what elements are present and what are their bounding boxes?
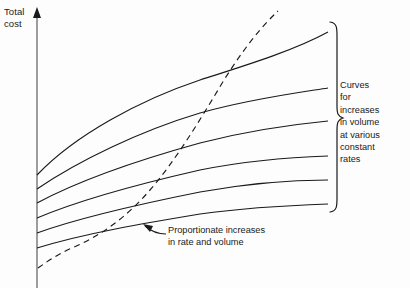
y-axis-arrowhead — [33, 7, 41, 18]
proportionate-callout-leader — [143, 224, 166, 234]
constant-rate-curve-1 — [37, 32, 328, 175]
constant-rate-curve-group — [37, 32, 328, 248]
chart-figure: Total cost Curves for increases in volum… — [0, 0, 410, 288]
proportionate-annotation-label: Proportionate increases in rate and volu… — [168, 224, 265, 248]
y-axis-label: Total cost — [4, 6, 25, 29]
constant-rate-curve-3 — [37, 121, 328, 203]
y-axis — [33, 7, 41, 288]
brace-annotation-label: Curves for increases in volume at variou… — [340, 79, 380, 166]
constant-rate-curve-4 — [37, 156, 328, 218]
